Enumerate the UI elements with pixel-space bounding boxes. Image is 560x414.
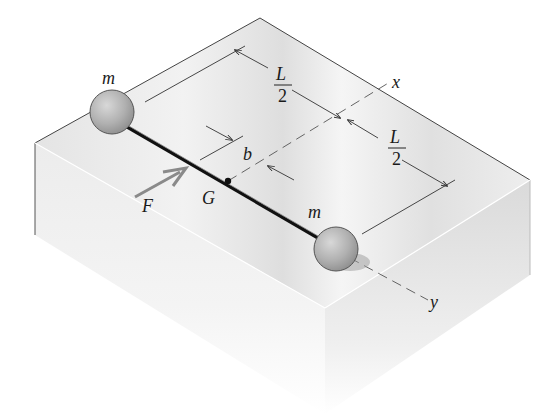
label-axis-y: y xyxy=(428,292,438,312)
mass-sphere-top xyxy=(90,90,134,134)
label-mass-bottom: m xyxy=(308,202,321,222)
center-of-mass-dot xyxy=(225,178,231,184)
label-half-length-num-2: L xyxy=(389,127,400,147)
mass-sphere-bottom xyxy=(314,227,358,271)
label-mass-top: m xyxy=(102,68,115,88)
label-half-length-num-1: L xyxy=(275,64,286,84)
label-half-length-den-2: 2 xyxy=(392,149,401,169)
label-half-length-den-1: 2 xyxy=(278,86,287,106)
label-offset-b: b xyxy=(243,144,252,164)
label-axis-x: x xyxy=(391,72,400,92)
label-force: F xyxy=(141,196,154,216)
diagram-svg: m m F G b L 2 L 2 x y xyxy=(0,0,560,414)
label-center-g: G xyxy=(202,188,215,208)
diagram-canvas: m m F G b L 2 L 2 x y xyxy=(0,0,560,414)
